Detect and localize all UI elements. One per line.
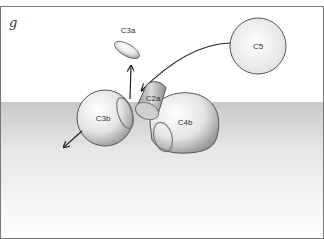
c2a-label: C2a <box>146 94 161 103</box>
panel-label: g <box>9 15 17 30</box>
c5-molecule: C5 <box>230 18 286 74</box>
c3a-label: C3a <box>121 26 136 35</box>
diagram-canvas: g C5 C3a C4b C2a C3b <box>0 0 324 239</box>
c3b-label: C3b <box>96 114 111 123</box>
complement-diagram: g C5 C3a C4b C2a C3b <box>0 0 324 239</box>
c5-label: C5 <box>253 42 264 51</box>
c4b-label: C4b <box>178 118 193 127</box>
